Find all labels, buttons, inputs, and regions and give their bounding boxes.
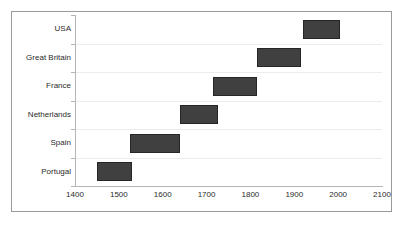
bar-great-britain (257, 48, 301, 67)
x-axis-label-2000: 2000 (329, 190, 347, 200)
y-axis-labels: USAGreat BritainFranceNetherlandsSpainPo… (0, 15, 71, 186)
x-axis-label-1700: 1700 (198, 190, 216, 200)
x-axis-label-1400: 1400 (66, 190, 84, 200)
bar-spain (130, 134, 180, 153)
y-axis-label-netherlands: Netherlands (28, 110, 71, 120)
plot-area (75, 15, 382, 186)
x-axis-line (75, 186, 383, 187)
y-axis-label-great-britain: Great Britain (26, 53, 71, 63)
bar-france (213, 77, 257, 96)
bar-portugal (97, 162, 132, 181)
x-axis-label-1900: 1900 (285, 190, 303, 200)
y-axis-label-portugal: Portugal (41, 167, 71, 177)
y-axis-label-usa: USA (55, 24, 71, 34)
y-axis-label-france: France (46, 81, 71, 91)
x-axis-label-1500: 1500 (110, 190, 128, 200)
chart-figure: USAGreat BritainFranceNetherlandsSpainPo… (0, 0, 404, 231)
x-axis-label-1600: 1600 (154, 190, 172, 200)
y-axis-label-spain: Spain (51, 138, 71, 148)
bar-netherlands (180, 105, 217, 124)
x-axis-label-2100: 2100 (373, 190, 391, 200)
x-axis-label-1800: 1800 (242, 190, 260, 200)
bar-usa (303, 20, 340, 39)
